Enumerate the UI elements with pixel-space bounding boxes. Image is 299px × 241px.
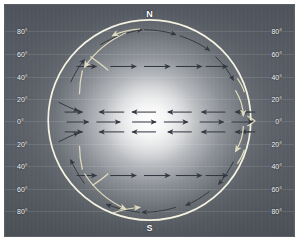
figure-background (5, 5, 294, 236)
figure-frame: 80° 60° 40° 20° 0° 20° 40° 60° 80° 80° 6… (4, 4, 295, 237)
diagram-screenshot: 80° 60° 40° 20° 0° 20° 40° 60° 80° 80° 6… (0, 0, 299, 241)
